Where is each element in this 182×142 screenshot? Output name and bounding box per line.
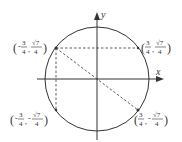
svg-text:(: ( (10, 113, 14, 127)
svg-text:4: 4 (139, 120, 143, 128)
label-lower-left: ( - 3 4 , - √7 4 ) (10, 111, 48, 128)
svg-text:,: , (28, 45, 30, 54)
svg-text:3: 3 (146, 39, 150, 47)
svg-text:): ) (164, 113, 168, 127)
svg-text:,: , (145, 117, 147, 126)
svg-text:): ) (167, 41, 171, 55)
svg-text:3: 3 (22, 39, 26, 47)
svg-text:4: 4 (146, 48, 150, 56)
svg-text:-: - (28, 114, 31, 123)
svg-text:,: , (152, 45, 154, 54)
point-upper-right (137, 47, 139, 49)
svg-text:): ) (44, 113, 48, 127)
y-axis-arrow-icon (94, 12, 100, 20)
svg-text:3: 3 (139, 111, 143, 119)
svg-text:): ) (43, 41, 47, 55)
svg-text:√7: √7 (32, 39, 40, 47)
svg-text:4: 4 (155, 120, 159, 128)
svg-text:,: , (25, 117, 27, 126)
label-upper-left: ( - 3 4 , √7 4 ) (13, 39, 47, 56)
svg-text:4: 4 (158, 48, 162, 56)
label-upper-right: ( 3 4 , √7 4 ) (141, 39, 171, 56)
svg-text:4: 4 (19, 120, 23, 128)
point-lower-left (55, 109, 57, 111)
svg-text:-: - (15, 114, 18, 123)
unit-circle-diagram: x y ( - 3 4 , √7 4 ) ( 3 4 , √7 4 ) (0, 0, 182, 142)
svg-text:(: ( (13, 41, 17, 55)
y-axis-label: y (100, 9, 106, 20)
point-upper-left (55, 47, 58, 50)
x-axis-label: x (155, 66, 161, 77)
svg-text:(: ( (134, 113, 138, 127)
svg-text:-: - (18, 42, 21, 51)
svg-text:√7: √7 (33, 111, 41, 119)
svg-text:4: 4 (35, 120, 39, 128)
svg-text:√7: √7 (153, 111, 161, 119)
svg-text:3: 3 (19, 111, 23, 119)
svg-text:4: 4 (34, 48, 38, 56)
svg-text:4: 4 (22, 48, 26, 56)
label-lower-right: ( 3 4 , - √7 4 ) (134, 111, 168, 128)
svg-text:-: - (148, 114, 151, 123)
svg-text:√7: √7 (156, 39, 164, 47)
svg-text:(: ( (141, 41, 145, 55)
